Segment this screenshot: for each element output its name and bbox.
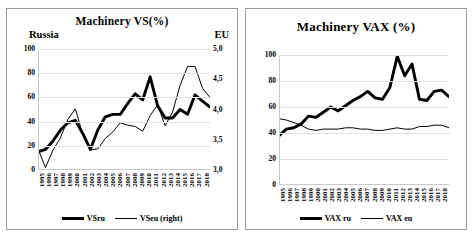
x-tick-label: 2018 bbox=[442, 188, 449, 202]
plot-area-machinery-vax bbox=[279, 55, 449, 185]
gridline bbox=[38, 122, 210, 123]
axis-label-russia: Russia bbox=[29, 29, 59, 40]
line-series-group-vs bbox=[38, 49, 210, 170]
axis-label-eu: EU bbox=[214, 29, 229, 40]
legend-label-vsru: VSru bbox=[87, 214, 105, 223]
y-tick-label: 100 bbox=[265, 51, 276, 59]
line-series-group-vax bbox=[279, 55, 449, 185]
y-tick-label: 60 bbox=[269, 103, 277, 111]
gridline bbox=[38, 73, 210, 74]
y-tick-label: 4,5 bbox=[213, 75, 222, 83]
legend-item-vseu: VSeu (right) bbox=[115, 214, 182, 223]
y-tick-label: 0 bbox=[31, 166, 35, 174]
data-line bbox=[279, 56, 449, 135]
gridline bbox=[38, 49, 210, 50]
gridline bbox=[279, 55, 449, 56]
gridline bbox=[279, 107, 449, 108]
legend-swatch-bold-icon bbox=[300, 217, 322, 220]
panel-title-machinery-vs: Machinery VS(%) bbox=[7, 15, 237, 27]
y-tick-label: 20 bbox=[269, 155, 277, 163]
panel-machinery-vs: Machinery VS(%) Russia EU 020406080100 3… bbox=[6, 8, 238, 230]
y-tick-label: 3,5 bbox=[213, 136, 222, 144]
y-tick-label: 20 bbox=[28, 142, 36, 150]
y-axis-right-ticks-vs: 3,03,54,04,55,0 bbox=[213, 49, 235, 170]
data-line bbox=[38, 77, 210, 152]
y-tick-label: 100 bbox=[24, 45, 35, 53]
data-line bbox=[38, 67, 210, 168]
y-axis-left-ticks-vs: 020406080100 bbox=[11, 49, 35, 170]
gridline bbox=[279, 133, 449, 134]
y-tick-label: 80 bbox=[269, 77, 277, 85]
legend-label-vaxru: VAX ru bbox=[325, 214, 351, 223]
legend-swatch-thin-icon bbox=[361, 218, 383, 219]
panel-machinery-vax: Machinery VAX (%) 020406080100 199519961… bbox=[245, 8, 467, 230]
x-axis-ticks-vs: 1995199619971998199920002001200220032004… bbox=[38, 172, 210, 210]
x-axis-line-vax bbox=[279, 184, 449, 185]
legend-machinery-vax: VAX ru VAX eu bbox=[246, 214, 466, 223]
y-axis-left-ticks-vax: 020406080100 bbox=[252, 55, 276, 185]
y-tick-label: 60 bbox=[28, 93, 36, 101]
legend-label-vseu: VSeu (right) bbox=[140, 214, 182, 223]
legend-swatch-bold-icon bbox=[62, 217, 84, 220]
figure-two-panel-line-charts: Machinery VS(%) Russia EU 020406080100 3… bbox=[0, 0, 473, 242]
gridline bbox=[38, 97, 210, 98]
gridline bbox=[279, 81, 449, 82]
y-tick-label: 40 bbox=[269, 129, 277, 137]
y-tick-label: 4,0 bbox=[213, 106, 222, 114]
panel-title-machinery-vax: Machinery VAX (%) bbox=[246, 19, 466, 35]
legend-swatch-thin-icon bbox=[115, 218, 137, 219]
x-tick: 2018 bbox=[203, 172, 210, 210]
y-tick-label: 40 bbox=[28, 118, 36, 126]
legend-item-vsru: VSru bbox=[62, 214, 105, 223]
legend-item-vaxeu: VAX eu bbox=[361, 214, 412, 223]
y-tick-label: 3,0 bbox=[213, 166, 222, 174]
legend-item-vaxru: VAX ru bbox=[300, 214, 351, 223]
plot-area-machinery-vs bbox=[38, 49, 210, 170]
y-tick-label: 5,0 bbox=[213, 45, 222, 53]
y-axis-line-vax bbox=[279, 55, 280, 185]
y-tick-label: 80 bbox=[28, 69, 36, 77]
y-axis-line-vs bbox=[38, 49, 39, 170]
y-tick-label: 0 bbox=[272, 181, 276, 189]
x-tick-label: 2018 bbox=[203, 173, 210, 187]
gridline bbox=[279, 159, 449, 160]
legend-machinery-vs: VSru VSeu (right) bbox=[7, 214, 237, 223]
x-axis-line-vs bbox=[38, 169, 210, 170]
legend-label-vaxeu: VAX eu bbox=[386, 214, 412, 223]
gridline bbox=[38, 146, 210, 147]
